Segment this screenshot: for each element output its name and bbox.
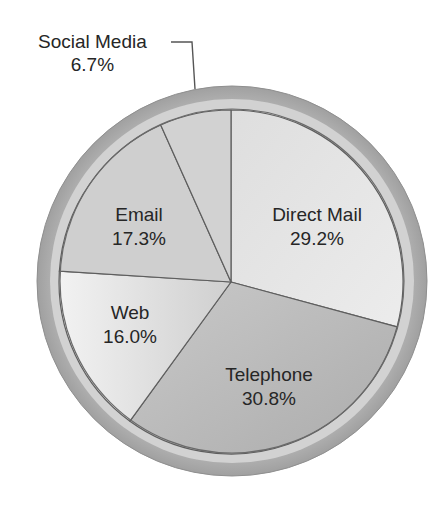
pie-graphic [0, 0, 446, 510]
label-direct-mail-name: Direct Mail [272, 203, 362, 227]
label-web-pct: 16.0% [103, 325, 157, 349]
social-media-leader-line [171, 42, 195, 89]
label-telephone: Telephone 30.8% [225, 363, 313, 411]
label-web: Web 16.0% [103, 301, 157, 349]
label-social-media: Social Media 6.7% [38, 30, 147, 76]
label-email-name: Email [112, 203, 166, 227]
label-direct-mail: Direct Mail 29.2% [272, 203, 362, 251]
label-telephone-name: Telephone [225, 363, 313, 387]
label-telephone-pct: 30.8% [225, 387, 313, 411]
label-social-media-name: Social Media [38, 30, 147, 53]
label-social-media-pct: 6.7% [38, 53, 147, 76]
label-email-pct: 17.3% [112, 227, 166, 251]
pie-chart: Social Media 6.7% Direct Mail 29.2% Emai… [0, 0, 446, 510]
label-web-name: Web [103, 301, 157, 325]
label-direct-mail-pct: 29.2% [272, 227, 362, 251]
label-email: Email 17.3% [112, 203, 166, 251]
